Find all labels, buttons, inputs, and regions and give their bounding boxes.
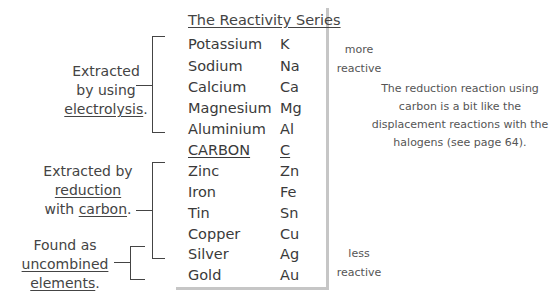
reduction-bracket	[152, 162, 165, 259]
uncombined-bracket	[130, 246, 145, 280]
element-name: Gold	[188, 264, 221, 286]
electrolysis-bracket	[152, 36, 165, 133]
element-symbol: Au	[280, 264, 299, 286]
element-name: Iron	[188, 181, 216, 203]
element-symbol: K	[280, 33, 290, 55]
element-symbol: Fe	[280, 181, 296, 203]
reduction-group-label: Extracted by reduction with carbon.	[38, 162, 138, 219]
element-name: CARBON	[188, 139, 250, 161]
element-name: Silver	[188, 243, 229, 265]
electrolysis-bracket-tick	[136, 85, 152, 86]
element-name: Aluminium	[188, 118, 266, 140]
element-symbol: Ag	[280, 243, 299, 265]
uncombined-group-label: Found as uncombined elements.	[20, 236, 110, 293]
more-reactive-label: more reactive	[332, 40, 386, 78]
element-name: Tin	[188, 202, 210, 224]
reduction-bracket-tick	[136, 210, 152, 211]
reduction-note: The reduction reaction using carbon is a…	[370, 80, 550, 152]
element-name: Potassium	[188, 33, 262, 55]
element-name: Magnesium	[188, 97, 272, 119]
element-symbol: Mg	[280, 97, 302, 119]
element-symbol: Cu	[280, 223, 299, 245]
element-symbol: C	[280, 139, 290, 161]
element-symbol: Zn	[280, 160, 299, 182]
electrolysis-group-label: Extracted by using electrolysis.	[56, 62, 156, 119]
less-reactive-label: less reactive	[332, 244, 386, 282]
element-name: Copper	[188, 223, 240, 245]
table-title: The Reactivity Series	[188, 12, 341, 28]
element-symbol: Na	[280, 55, 300, 77]
element-symbol: Ca	[280, 76, 299, 98]
element-name: Calcium	[188, 76, 246, 98]
uncombined-bracket-tick	[114, 262, 130, 263]
element-name: Zinc	[188, 160, 219, 182]
element-symbol: Al	[280, 118, 294, 140]
element-symbol: Sn	[280, 202, 298, 224]
element-name: Sodium	[188, 55, 243, 77]
